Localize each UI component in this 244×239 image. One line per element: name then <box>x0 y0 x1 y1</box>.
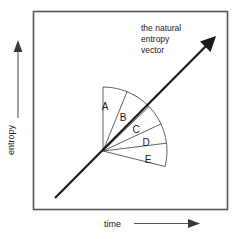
sector-label-e: E <box>145 154 152 165</box>
sector-label-a: A <box>102 101 109 112</box>
x-axis-label: time <box>104 219 121 229</box>
x-axis-arrowhead-icon <box>188 219 200 228</box>
plot-frame <box>34 12 228 210</box>
sector-label-c: C <box>132 124 139 135</box>
y-axis-arrowhead-icon <box>14 40 23 52</box>
sector-label-b: B <box>120 112 127 123</box>
y-axis: entropy <box>6 40 22 155</box>
x-axis: time <box>104 219 200 229</box>
annotation-line-1: the natural <box>141 23 181 33</box>
y-axis-label: entropy <box>6 124 16 155</box>
annotation-line-2: entropy <box>141 34 170 44</box>
annotation-line-3: vector <box>141 45 164 55</box>
entropy-vector-diagram: entropy time A B C D E the natural entro… <box>0 0 244 239</box>
sector-label-d: D <box>142 137 149 148</box>
